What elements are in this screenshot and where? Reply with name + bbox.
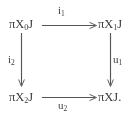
node-pi-x2-j: πX2J bbox=[9, 91, 33, 105]
label-subscript: 2 bbox=[11, 58, 15, 67]
node-suffix: J bbox=[28, 17, 33, 31]
arrow-label-i1: i1 bbox=[58, 5, 65, 18]
node-pi-x0-j: πX0J bbox=[9, 18, 33, 32]
label-subscript: 1 bbox=[119, 58, 123, 67]
node-base: πX bbox=[98, 90, 113, 104]
label-subscript: 2 bbox=[64, 104, 68, 113]
node-base: πX bbox=[9, 90, 24, 104]
arrow-bottom-u2 bbox=[42, 94, 97, 100]
arrow-label-u2: u2 bbox=[58, 100, 67, 113]
node-suffix: J. bbox=[113, 90, 121, 104]
arrow-left-i2 bbox=[19, 33, 25, 87]
node-base: πX bbox=[98, 17, 113, 31]
node-suffix: J bbox=[117, 17, 122, 31]
node-pi-x-j: πXJ. bbox=[98, 91, 121, 105]
node-pi-x1-j: πX1J bbox=[98, 18, 122, 32]
arrow-top-i1 bbox=[42, 22, 97, 28]
label-subscript: 1 bbox=[61, 9, 65, 18]
node-suffix: J bbox=[28, 90, 33, 104]
node-base: πX bbox=[9, 17, 24, 31]
commutative-diagram: πX0J πX1J πX2J πXJ. i1 i2 u1 u2 bbox=[0, 0, 135, 117]
arrow-label-i2: i2 bbox=[8, 54, 15, 67]
arrow-label-u1: u1 bbox=[113, 54, 122, 67]
